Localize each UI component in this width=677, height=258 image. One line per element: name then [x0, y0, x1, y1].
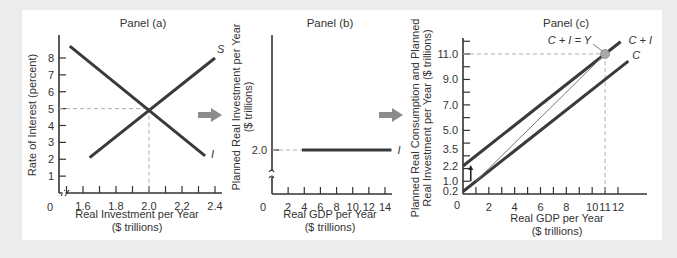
panel-b-x-tick-label: 12 — [363, 201, 375, 213]
panel-b-y-tick-label: 2.0 — [252, 144, 267, 156]
panel-a-origin-label: 0 — [47, 201, 53, 213]
panel-c-origin-label: 0 — [454, 199, 460, 211]
panel-c-series-y — [476, 54, 605, 181]
panel-c-series-c — [463, 61, 628, 191]
panel-a-x-tick-label: 1.6 — [75, 200, 90, 212]
panel-a-axis-break-gap — [63, 191, 66, 195]
panel-a-x-tick-label: 2.2 — [174, 200, 189, 212]
panel-c-xlabel2: ($ trillions) — [532, 225, 583, 237]
panel-b-xlabel2: ($ trillions) — [305, 221, 356, 233]
panel-c-equilibrium-point — [601, 50, 610, 59]
panel-a-y-tick-label: 6 — [48, 86, 54, 98]
panel-a-series-s — [90, 58, 215, 158]
panel-a-x-tick-label: 2.0 — [141, 200, 156, 212]
arrow-right-icon — [379, 108, 403, 122]
panel-a-ylabel: Rate of Interest (percent) — [26, 54, 38, 176]
panel-a-x-tick-label: 1.8 — [108, 200, 123, 212]
arrow-right-icon — [198, 108, 222, 122]
panel-c-label-c: C — [632, 49, 640, 61]
panel-b-ylabel: Planned Real Investment per Year — [230, 23, 242, 190]
panel-c-label-equilibrium: C + I = Y — [548, 34, 592, 46]
panel-a-label-i: I — [211, 148, 214, 160]
panel-c-title: Panel (c) — [543, 17, 589, 29]
panel-c-x-tick-label: 2 — [486, 201, 492, 213]
panel-c-leader-line — [593, 44, 602, 51]
panel-c-y-tick-label: 7.0 — [443, 99, 458, 111]
panel-c-x-tick-label: 11 — [599, 201, 610, 213]
panel-a-y-tick-label: 2 — [48, 153, 54, 165]
panel-c-y-tick-label: 3.5 — [443, 143, 458, 155]
panel-a-x-tick-label: 2.4 — [207, 200, 222, 212]
panel-c-x-tick-label: 8 — [563, 201, 569, 213]
panel-b-x-tick-label: 14 — [379, 201, 391, 213]
chart-canvas: Panel (a) Panel (b) Panel (c) Real Inves… — [0, 0, 677, 258]
panel-c-label-c-plus-i: C + I — [629, 34, 653, 46]
panel-c-y-tick-label: 1.0 — [443, 175, 458, 187]
panel-b-label-i: I — [397, 144, 400, 156]
panel-b-x-tick-label: 8 — [334, 201, 340, 213]
panel-a-y-tick-label: 5 — [48, 103, 54, 115]
panel-a-y-tick-label: 4 — [48, 120, 54, 132]
panel-a-y-tick-label: 8 — [48, 52, 54, 64]
panel-b-title: Panel (b) — [307, 17, 354, 29]
panel-a-y-tick-label: 3 — [48, 136, 54, 148]
panel-b-x-tick-label: 2 — [285, 201, 291, 213]
panel-c-x-tick-label: 4 — [512, 201, 518, 213]
panel-b-ylabel2: ($ trillions) — [242, 82, 254, 133]
panel-c-ylabel: Planned Real Consumption and Planned — [409, 19, 421, 218]
panel-a-y-tick-label: 7 — [48, 69, 54, 81]
panel-c-x-tick-label: 6 — [537, 201, 543, 213]
panel-b-x-tick-label: 10 — [347, 201, 359, 213]
panel-b-x-tick-label: 4 — [301, 201, 307, 213]
panel-c-arrow-up-icon — [468, 165, 473, 170]
panel-c-y-tick-label: 11.0 — [437, 48, 458, 60]
panel-c-series-cplusi — [463, 42, 621, 166]
panel-c-xlabel: Real GDP per Year — [510, 212, 604, 224]
panel-c-x-tick-label: 10 — [586, 201, 598, 213]
panel-c-x-tick-label: 12 — [612, 201, 624, 213]
panel-a-label-s: S — [217, 43, 225, 55]
panel-b-x-tick-label: 6 — [317, 201, 323, 213]
panel-c-y-tick-label: 9.0 — [443, 73, 458, 85]
panel-a-series-i — [70, 46, 205, 156]
panel-a-y-tick-label: 1 — [48, 170, 54, 182]
panel-a-xlabel2: ($ trillions) — [112, 221, 163, 233]
panel-c-ylabel2: Real Investment per Year ($ trillions) — [421, 29, 433, 206]
panel-a-title: Panel (a) — [120, 17, 167, 29]
panel-c-y-tick-label: 2.2 — [443, 160, 458, 172]
panel-c-y-tick-label: 5.0 — [443, 124, 458, 136]
panel-b-origin-label: 0 — [260, 201, 266, 213]
